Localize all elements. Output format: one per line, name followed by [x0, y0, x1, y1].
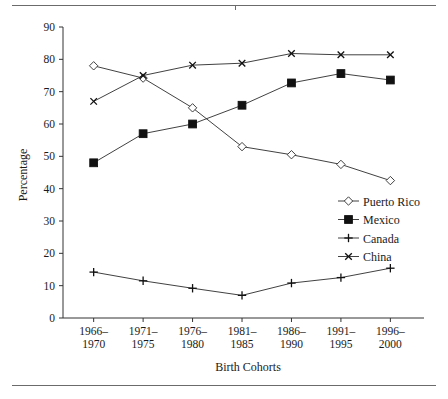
x-tick-label: 1970 [82, 338, 105, 350]
series-mexico [90, 70, 395, 167]
x-tick-label: 1986– [277, 325, 306, 337]
legend-label: China [363, 250, 392, 264]
data-point-marker [386, 176, 394, 184]
data-point-marker [337, 273, 345, 281]
top-rule-center-tick [235, 6, 236, 10]
y-tick-label: 90 [44, 21, 56, 33]
x-tick-label: 1990 [280, 338, 303, 350]
legend-item-canada[interactable]: Canada [338, 232, 400, 246]
data-point-marker [386, 264, 394, 272]
data-point-marker [386, 76, 394, 84]
legend-item-puerto-rico[interactable]: Puerto Rico [338, 195, 420, 209]
data-point-marker [139, 277, 147, 285]
data-point-marker [287, 279, 295, 287]
data-point-marker [238, 142, 246, 150]
data-point-marker [89, 268, 97, 276]
x-tick-label: 1975 [132, 338, 155, 350]
legend-marker [344, 197, 352, 205]
y-tick-label: 80 [44, 53, 56, 65]
x-tick-label: 1981– [228, 325, 257, 337]
x-tick-label: 1991– [327, 325, 356, 337]
x-tick-label: 1971– [129, 325, 158, 337]
series-china [90, 50, 393, 104]
x-axis-title: Birth Cohorts [215, 360, 281, 374]
data-point-marker [188, 104, 196, 112]
data-point-marker [188, 284, 196, 292]
chart-figure: 0102030405060708090 1966–19701971–197519… [0, 0, 448, 399]
y-tick-label: 50 [44, 150, 56, 162]
data-point-marker [287, 151, 295, 159]
x-tick-label: 1966– [79, 325, 108, 337]
y-tick-label: 40 [44, 183, 56, 195]
y-axis-title: Percentage [16, 149, 30, 202]
legend-label: Mexico [363, 213, 400, 227]
data-series-group [89, 50, 394, 299]
y-axis: 0102030405060708090 [44, 21, 64, 324]
top-divider-rule [12, 5, 436, 6]
x-tick-label: 1976– [178, 325, 207, 337]
x-tick-label: 1995 [329, 338, 352, 350]
data-point-marker [139, 130, 147, 138]
data-point-marker [238, 291, 246, 299]
data-point-marker [89, 62, 97, 70]
legend-item-mexico[interactable]: Mexico [338, 213, 400, 227]
bottom-divider-rule [12, 385, 436, 386]
y-tick-label: 10 [44, 280, 56, 292]
data-point-marker [189, 120, 197, 128]
data-point-marker [337, 160, 345, 168]
data-point-marker [288, 79, 296, 87]
y-tick-label: 30 [44, 215, 56, 227]
x-tick-label: 2000 [379, 338, 402, 350]
x-tick-label: 1996– [376, 325, 405, 337]
x-tick-label: 1985 [231, 338, 254, 350]
y-tick-label: 70 [44, 86, 56, 98]
y-tick-label: 60 [44, 118, 56, 130]
legend-item-china[interactable]: China [338, 250, 392, 264]
legend-label: Canada [363, 232, 400, 246]
line-chart-plot: 0102030405060708090 1966–19701971–197519… [0, 0, 448, 399]
chart-legend: Puerto RicoMexicoCanadaChina [338, 195, 420, 265]
y-tick-label: 20 [44, 247, 56, 259]
legend-marker [345, 216, 353, 224]
y-tick-label: 0 [49, 312, 55, 324]
data-point-marker [90, 159, 98, 167]
x-axis: 1966–19701971–19751976–19801981–19851986… [63, 318, 424, 350]
data-point-marker [337, 70, 345, 78]
series-canada [89, 264, 394, 300]
legend-marker [344, 234, 352, 242]
legend-label: Puerto Rico [363, 195, 420, 209]
x-tick-label: 1980 [181, 338, 204, 350]
data-point-marker [238, 101, 246, 109]
data-point-marker [90, 98, 97, 105]
